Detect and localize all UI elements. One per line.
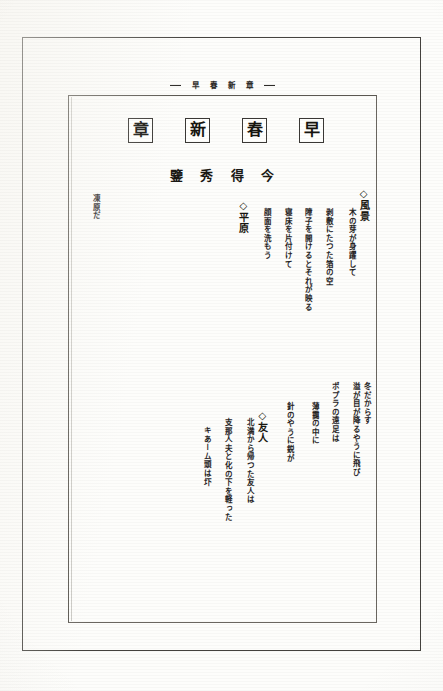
running-header-char-1: 早 — [192, 82, 199, 90]
poem-winter: 冬だからす 溢が目が降るやうに飛び ポプラの遠足は 薄靄の中に 針のやうに鋭が — [270, 382, 371, 477]
poem-landscape-line-4: 寝床を片付けて — [281, 208, 292, 268]
poem-landscape-line-1: 木の芽が身躍して — [345, 208, 356, 277]
poem-plain: ◇平原 — [236, 188, 251, 235]
title-box-char-1: 早 — [299, 118, 324, 143]
poem-winter-line-4: 薄靄の中に — [308, 402, 319, 445]
poem-landscape-heading: ◇風景 — [356, 188, 371, 223]
poem-group-lower: 冬だからす 溢が目が降るやうに飛び ポプラの遠足は 薄靄の中に 針のやうに鋭が … — [171, 382, 371, 582]
author-char-4: 鑒 — [170, 169, 183, 182]
running-header-char-3: 新 — [228, 82, 235, 90]
title-box-char-2: 春 — [242, 118, 267, 143]
running-header: 早 春 新 章 — [68, 78, 377, 94]
running-header-char-2: 春 — [210, 82, 217, 90]
author-char-2: 得 — [231, 169, 244, 182]
page-title: 早 春 新 章 — [128, 115, 324, 145]
poem-friend-line-3: キあーム頭は圷 — [201, 426, 212, 486]
running-header-char-4: 章 — [246, 82, 253, 90]
poem-landscape-line-3: 障子を開けるとそれが映る — [302, 208, 313, 311]
poem-landscape: ◇風景 木の芽が身躍して 剥敷にたつた箔の空 障子を開けるとそれが映る 寝床を片… — [251, 188, 371, 311]
poem-plain-line-1-wrap: 凍原だ — [90, 194, 101, 220]
poem-friend-line-2: 支那人夫と化の下を軽った — [222, 418, 233, 521]
header-rule-right — [264, 85, 275, 86]
poem-winter-line-3: ポプラの遠足は — [329, 382, 340, 442]
title-box-char-3: 新 — [185, 118, 210, 143]
poem-plain-line-1: 凍原だ — [90, 194, 101, 220]
poem-landscape-line-5: 顔面を洗もう — [261, 208, 272, 260]
poem-friend-line-1: 北満から帰つた友人は — [244, 418, 255, 504]
poem-friend: ◇友人 北満から帰つた友人は 支那人夫と化の下を軽った キあーム頭は圷 — [191, 382, 270, 521]
author-char-3: 秀 — [200, 169, 213, 182]
poem-plain-heading: ◇平原 — [236, 200, 251, 235]
author-byline: 今 得 秀 鑒 — [170, 166, 274, 184]
title-box-char-4: 章 — [128, 118, 153, 143]
poem-group-upper: ◇風景 木の芽が身躍して 剥敷にたつた箔の空 障子を開けるとそれが映る 寝床を片… — [216, 188, 371, 368]
poem-winter-line-2: 溢が目が降るやうに飛び — [350, 382, 361, 477]
poem-winter-line-5: 針のやうに鋭が — [284, 402, 295, 462]
author-char-1: 今 — [261, 169, 274, 182]
poem-winter-line-1: 冬だからす — [360, 382, 371, 425]
scanned-page: 早 春 新 章 早 春 新 章 今 得 秀 鑒 ◇風景 木の芽が身躍して 剥敷に… — [0, 0, 443, 691]
header-rule-left — [170, 85, 181, 86]
poem-landscape-line-2: 剥敷にたつた箔の空 — [323, 208, 334, 285]
poem-friend-heading: ◇友人 — [255, 410, 270, 445]
